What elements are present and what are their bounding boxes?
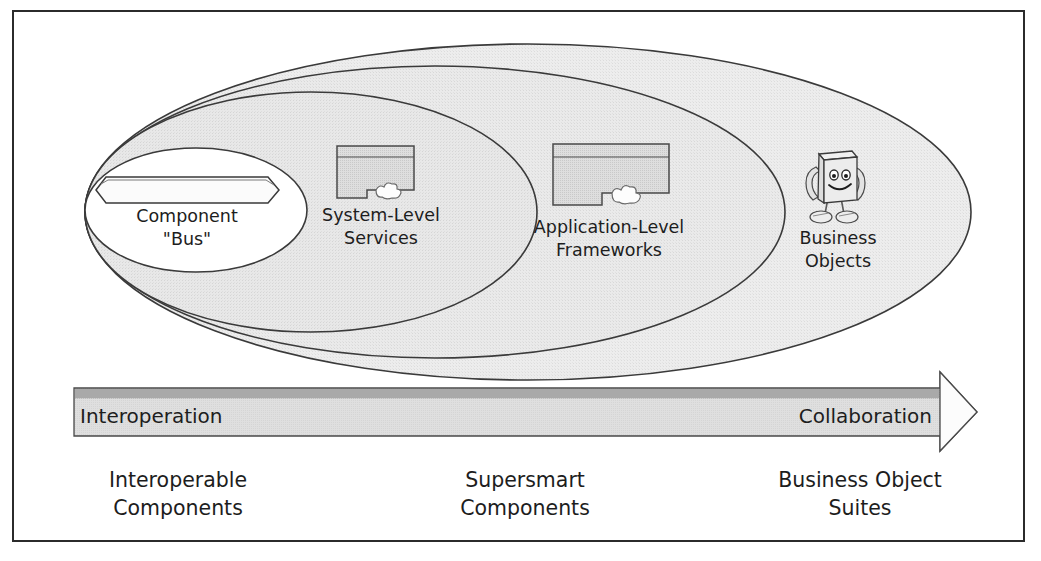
ellipse-component-bus — [85, 148, 307, 272]
bus-bar-icon — [96, 177, 279, 203]
stage-label-line2: Suites — [828, 496, 891, 520]
stage-label-line1: Interoperable — [109, 468, 247, 492]
stage-label-business-object-suites: Business Object Suites — [778, 468, 942, 520]
stage-label-line1: Supersmart — [465, 468, 585, 492]
component-layers-diagram: Component "Bus" System-Level Services Ap… — [0, 0, 1041, 561]
stage-label-interoperable-components: Interoperable Components — [109, 468, 247, 520]
stage-label-line2: Components — [113, 496, 243, 520]
stage-label-line1: Business Object — [778, 468, 942, 492]
stage-label-line2: Components — [460, 496, 590, 520]
diagram-page: Component "Bus" System-Level Services Ap… — [0, 0, 1041, 561]
interoperation-collaboration-arrow[interactable]: Interoperation Collaboration — [74, 372, 977, 451]
nested-ellipse-group — [85, 44, 971, 380]
stage-label-supersmart-components: Supersmart Components — [460, 468, 590, 520]
